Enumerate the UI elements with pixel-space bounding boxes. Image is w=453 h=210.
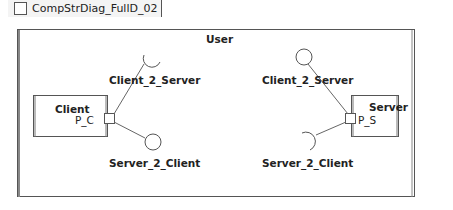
socket-icon [302,132,315,150]
port-label-p-s: P_S [358,114,376,126]
interface-label-client-2-server-left: Client_2_Server [109,74,200,86]
container-label: User [206,33,233,45]
interface-label-server-2-client-right: Server_2_Client [262,157,353,169]
socket-icon [143,55,160,67]
client-part[interactable] [34,96,108,138]
port-p-s[interactable] [346,114,356,124]
port-label-p-c: P_C [75,114,94,126]
port-p-c[interactable] [105,114,115,124]
lollipop-icon [296,49,312,65]
server-part-label: Server [369,101,408,113]
interface-label-server-2-client-left: Server_2_Client [109,157,200,169]
interface-label-client-2-server-right: Client_2_Server [262,74,353,86]
lollipop-icon [145,134,161,150]
